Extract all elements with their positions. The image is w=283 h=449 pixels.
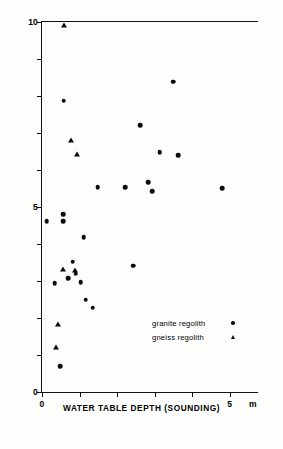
x-axis-title: WATER TABLE DEPTH (SOUNDING) bbox=[0, 403, 283, 413]
data-point-circle bbox=[61, 99, 66, 104]
x-axis-tick bbox=[117, 392, 118, 397]
y-axis-tick bbox=[37, 355, 42, 356]
data-point-triangle bbox=[61, 22, 67, 27]
legend-item-granite: granite regolith bbox=[152, 316, 239, 330]
data-point-circle bbox=[78, 280, 83, 285]
legend-marker-circle-icon bbox=[227, 321, 239, 325]
legend-marker-triangle-icon bbox=[227, 335, 239, 339]
data-point-circle bbox=[220, 186, 225, 191]
data-point-circle bbox=[71, 259, 76, 264]
data-point-circle bbox=[61, 212, 66, 217]
data-point-triangle bbox=[55, 322, 61, 327]
y-axis-tick bbox=[37, 96, 42, 97]
data-point-circle bbox=[150, 189, 155, 194]
data-point-circle bbox=[66, 276, 71, 281]
y-axis-tick bbox=[37, 281, 42, 282]
data-point-circle bbox=[131, 264, 136, 269]
legend-label-gneiss: gneiss regolith bbox=[152, 333, 227, 342]
y-axis-tick-label: 10 bbox=[28, 17, 38, 27]
data-point-circle bbox=[146, 180, 151, 185]
y-axis-tick bbox=[37, 133, 42, 134]
x-axis-tick bbox=[155, 392, 156, 397]
data-point-triangle bbox=[53, 345, 59, 350]
y-axis-tick bbox=[37, 318, 42, 319]
data-point-circle bbox=[90, 305, 95, 310]
data-point-circle bbox=[61, 219, 66, 224]
figure-canvas: 051005m STANDING WATER LEVEL IN BOREHOLE… bbox=[0, 0, 283, 449]
data-point-circle bbox=[58, 364, 63, 369]
data-point-circle bbox=[45, 219, 50, 224]
data-point-circle bbox=[52, 281, 57, 286]
legend-label-granite: granite regolith bbox=[152, 319, 227, 328]
y-axis-tick bbox=[37, 170, 42, 171]
x-axis-tick bbox=[80, 392, 81, 397]
x-axis-tick bbox=[42, 392, 43, 397]
y-axis-tick-label: 5 bbox=[33, 202, 38, 212]
data-point-circle bbox=[138, 123, 143, 128]
data-point-circle bbox=[81, 235, 86, 240]
data-point-triangle bbox=[68, 138, 74, 143]
legend-item-gneiss: gneiss regolith bbox=[152, 330, 239, 344]
data-point-circle bbox=[83, 297, 88, 302]
data-point-circle bbox=[123, 185, 128, 190]
y-axis-tick bbox=[37, 59, 42, 60]
data-point-circle bbox=[95, 185, 100, 190]
data-point-triangle bbox=[74, 152, 80, 157]
data-point-triangle bbox=[72, 267, 78, 272]
chart-legend: granite regolith gneiss regolith bbox=[152, 316, 239, 344]
x-axis-tick bbox=[230, 392, 231, 397]
data-point-circle bbox=[157, 150, 162, 155]
data-point-circle bbox=[171, 79, 176, 84]
x-axis-tick bbox=[192, 392, 193, 397]
y-axis-tick bbox=[37, 244, 42, 245]
data-point-triangle bbox=[60, 266, 66, 271]
data-point-circle bbox=[176, 153, 181, 158]
y-axis-tick-label: 0 bbox=[33, 387, 38, 397]
